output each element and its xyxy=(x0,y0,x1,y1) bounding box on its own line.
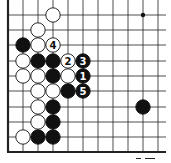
hoshi-point xyxy=(141,13,145,17)
black-stone xyxy=(46,100,60,114)
black-stone xyxy=(136,100,150,114)
black-stone xyxy=(31,130,45,144)
black-stone xyxy=(16,38,30,52)
black-stone xyxy=(31,54,45,68)
black-stone: 5 xyxy=(76,84,90,98)
white-stone xyxy=(61,69,75,83)
white-stone xyxy=(31,69,45,83)
cut-off-caption xyxy=(136,158,166,163)
hoshi-points xyxy=(141,13,145,17)
move-number-label: 3 xyxy=(80,56,87,67)
move-number-label: 5 xyxy=(80,86,87,97)
white-stone xyxy=(46,8,60,22)
white-stone xyxy=(31,115,45,129)
move-number-label: 4 xyxy=(50,40,57,51)
white-stone xyxy=(16,54,30,68)
black-stone: 3 xyxy=(76,54,90,68)
black-stone xyxy=(61,84,75,98)
white-stone xyxy=(46,84,60,98)
black-stone xyxy=(46,54,60,68)
white-stone: 2 xyxy=(61,54,75,68)
white-stone xyxy=(31,23,45,37)
white-stone xyxy=(16,130,30,144)
black-stone xyxy=(46,130,60,144)
black-stone xyxy=(46,69,60,83)
white-stone: 4 xyxy=(46,38,60,52)
move-number-label: 2 xyxy=(65,56,72,67)
black-stone xyxy=(46,115,60,129)
white-stone xyxy=(16,69,30,83)
white-stone xyxy=(31,38,45,52)
go-board: 42315 xyxy=(0,0,171,163)
white-stone xyxy=(31,84,45,98)
move-number-label: 1 xyxy=(80,71,87,82)
black-stone: 1 xyxy=(76,69,90,83)
white-stone xyxy=(31,100,45,114)
